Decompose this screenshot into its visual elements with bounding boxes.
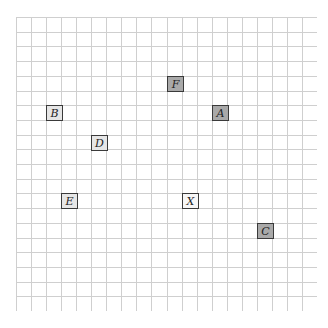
- tile-label: E: [65, 196, 73, 207]
- tile-label: C: [261, 226, 269, 237]
- grid: [16, 17, 317, 311]
- tile-label: X: [187, 196, 195, 207]
- game-board: FABDEXC: [16, 17, 317, 311]
- tile-d[interactable]: D: [91, 135, 108, 151]
- tile-label: D: [95, 138, 104, 149]
- tile-x[interactable]: X: [182, 193, 199, 209]
- tile-label: A: [217, 108, 225, 119]
- tile-label: B: [50, 108, 58, 119]
- tile-a[interactable]: A: [212, 105, 229, 121]
- tile-e[interactable]: E: [61, 193, 78, 209]
- tile-b[interactable]: B: [46, 105, 63, 121]
- tile-label: F: [172, 79, 180, 90]
- tile-f[interactable]: F: [167, 76, 184, 92]
- tile-c[interactable]: C: [257, 223, 274, 239]
